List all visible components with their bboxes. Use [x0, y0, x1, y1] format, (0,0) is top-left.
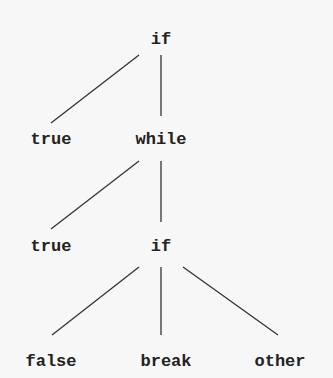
- syntax-tree-diagram: if true while true if false break other: [0, 0, 333, 378]
- tree-edge: [52, 267, 139, 335]
- node-if-root: if: [151, 30, 171, 50]
- tree-edge: [183, 267, 278, 335]
- node-if-inner: if: [151, 237, 171, 257]
- tree-edges: [0, 0, 333, 378]
- node-true-2: true: [31, 237, 72, 257]
- node-true-1: true: [31, 130, 72, 150]
- node-false: false: [25, 352, 76, 372]
- tree-edge: [51, 161, 139, 229]
- tree-edge: [51, 55, 139, 123]
- node-while: while: [135, 130, 186, 150]
- node-break: break: [140, 352, 191, 372]
- node-other: other: [254, 352, 305, 372]
